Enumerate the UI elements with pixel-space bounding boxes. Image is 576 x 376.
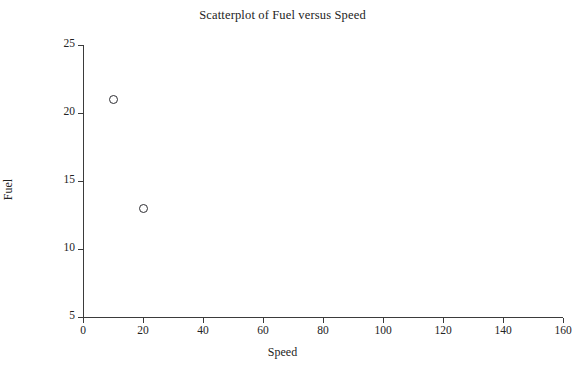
data-point	[139, 204, 148, 213]
y-axis-line	[83, 45, 84, 318]
y-tick-label: 25	[35, 37, 75, 49]
x-axis-title: Speed	[0, 345, 565, 360]
y-tick-label: 5	[35, 309, 75, 321]
x-tick-label: 140	[483, 324, 523, 336]
x-tick-label: 80	[303, 324, 343, 336]
y-tick-mark	[78, 317, 83, 318]
y-tick-label: 20	[35, 105, 75, 117]
x-tick-mark	[563, 318, 564, 323]
x-tick-label: 40	[183, 324, 223, 336]
x-tick-mark	[203, 318, 204, 323]
y-tick-mark	[78, 249, 83, 250]
y-tick-label: 10	[35, 241, 75, 253]
x-tick-label: 160	[543, 324, 576, 336]
x-tick-label: 20	[123, 324, 163, 336]
x-tick-mark	[143, 318, 144, 323]
x-tick-mark	[83, 318, 84, 323]
y-tick-mark	[78, 113, 83, 114]
x-tick-mark	[503, 318, 504, 323]
y-tick-mark	[78, 45, 83, 46]
y-tick-label: 15	[35, 173, 75, 185]
y-axis-title: Fuel	[1, 160, 16, 220]
data-point	[109, 95, 118, 104]
x-tick-mark	[323, 318, 324, 323]
y-axis-tick-labels: 510152025	[33, 0, 75, 376]
x-tick-mark	[383, 318, 384, 323]
x-tick-label: 100	[363, 324, 403, 336]
x-tick-mark	[443, 318, 444, 323]
x-tick-label: 60	[243, 324, 283, 336]
y-tick-mark	[78, 181, 83, 182]
x-tick-label: 120	[423, 324, 463, 336]
x-tick-mark	[263, 318, 264, 323]
